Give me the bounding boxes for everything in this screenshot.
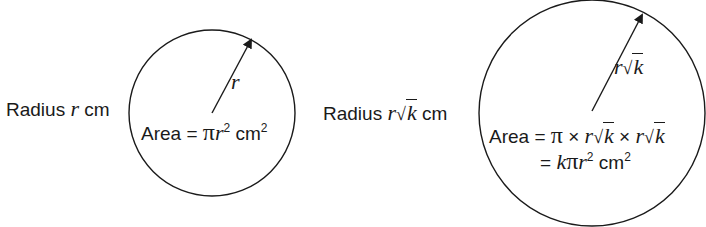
- times-symbol: ×: [568, 126, 579, 147]
- right-radius-label: Radius r√k cm: [323, 100, 447, 126]
- left-area-formula: Area = πr2 cm2: [141, 119, 267, 146]
- large-radius-symbol: r√k: [614, 54, 643, 80]
- variable-r: r: [387, 100, 396, 125]
- right-area-formula-line2: = kπr2 cm2: [540, 148, 631, 175]
- small-radius-symbol: r: [231, 69, 240, 95]
- exponent: 2: [587, 150, 594, 164]
- pi-symbol: π: [551, 122, 563, 148]
- exponent: 2: [223, 121, 230, 135]
- label-text: Radius: [6, 99, 65, 120]
- sqrt-icon: √: [623, 58, 633, 78]
- unit: cm: [422, 103, 447, 124]
- variable-r: r: [614, 54, 623, 79]
- variable-k: k: [556, 149, 566, 174]
- sqrt-icon: √: [396, 104, 406, 124]
- pi-symbol: π: [566, 148, 578, 174]
- unit: cm: [599, 152, 624, 173]
- variable-r: r: [635, 123, 644, 148]
- unit-exponent: 2: [261, 121, 268, 135]
- variable-k: k: [654, 122, 665, 148]
- equals-sign: =: [540, 152, 551, 173]
- sqrt-icon: √: [593, 127, 603, 147]
- sqrt-icon: √: [644, 127, 654, 147]
- area-prefix: Area =: [489, 126, 546, 147]
- variable-k: k: [603, 122, 614, 148]
- right-area-formula-line1: Area = π × r√k × r√k: [489, 122, 665, 149]
- variable-k: k: [406, 99, 417, 125]
- variable-r: r: [585, 123, 594, 148]
- variable-k: k: [632, 53, 643, 79]
- unit: cm: [235, 123, 260, 144]
- pi-symbol: π: [203, 119, 215, 145]
- unit: cm: [84, 99, 109, 120]
- large-circle: [479, 0, 705, 226]
- left-radius-label: Radius r cm: [6, 96, 110, 122]
- times-symbol: ×: [619, 126, 630, 147]
- area-prefix: Area =: [141, 123, 198, 144]
- variable-r: r: [70, 96, 79, 121]
- unit-exponent: 2: [624, 150, 631, 164]
- variable-r: r: [578, 149, 587, 174]
- label-text: Radius: [323, 103, 382, 124]
